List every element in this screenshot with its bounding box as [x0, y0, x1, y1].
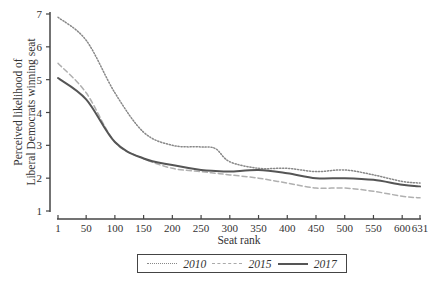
x-tick-label: 1 — [55, 222, 61, 234]
x-tick-label: 200 — [164, 222, 181, 234]
legend-item-2015: 2015 — [212, 258, 271, 270]
x-tick-label: 550 — [365, 222, 382, 234]
y-tick-label: 4 — [37, 107, 43, 119]
y-tick-label: 2 — [37, 172, 43, 184]
y-axis: 1234567 — [37, 8, 51, 217]
legend-label: 2017 — [314, 258, 337, 270]
x-tick-label: 450 — [308, 222, 325, 234]
x-tick-label: 50 — [81, 222, 93, 234]
dashed-line-swatch-icon — [212, 263, 242, 264]
legend-label: 2015 — [248, 258, 271, 270]
y-axis-title: Perceived likelihood of Liberal Democrat… — [12, 38, 38, 186]
x-axis: 150100150200250300350400450500550600631 — [55, 215, 428, 234]
line-chart: 1234567 15010015020025030035040045050055… — [0, 0, 435, 250]
series-line-2017 — [58, 78, 420, 186]
x-tick-label: 600 — [394, 222, 411, 234]
x-tick-label: 100 — [107, 222, 124, 234]
x-tick-label: 150 — [135, 222, 152, 234]
legend-label: 2010 — [183, 258, 206, 270]
y-tick-label: 5 — [37, 74, 43, 86]
legend: 2010 2015 2017 — [137, 254, 347, 273]
y-tick-label: 1 — [37, 205, 43, 217]
y-axis-title-line2: Liberal Democrats winning seat — [25, 38, 38, 186]
y-tick-label: 6 — [37, 41, 43, 53]
x-axis-title: Seat rank — [217, 234, 260, 246]
legend-item-2017: 2017 — [278, 258, 337, 270]
x-tick-label: 250 — [193, 222, 210, 234]
x-tick-label: 350 — [250, 222, 267, 234]
series-lines — [58, 17, 420, 198]
series-line-2010 — [58, 17, 420, 183]
x-tick-label: 500 — [336, 222, 353, 234]
series-line-2015 — [58, 63, 420, 198]
x-tick-label: 631 — [412, 222, 429, 234]
x-tick-label: 400 — [279, 222, 296, 234]
y-tick-label: 7 — [37, 8, 43, 20]
y-tick-label: 3 — [37, 139, 43, 151]
x-tick-label: 300 — [222, 222, 239, 234]
y-axis-title-line1: Perceived likelihood of — [12, 58, 24, 165]
solid-line-swatch-icon — [278, 263, 308, 265]
dotted-line-swatch-icon — [147, 263, 177, 264]
legend-item-2010: 2010 — [147, 258, 206, 270]
